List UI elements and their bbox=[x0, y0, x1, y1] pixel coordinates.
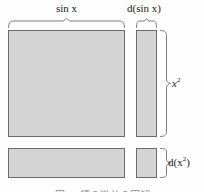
label-d-x-squared: d(x2) bbox=[168, 157, 190, 168]
label-sin-x: sin x bbox=[56, 3, 77, 14]
label-d-sin-x-text: d(sin x) bbox=[127, 2, 161, 14]
x-squared-height-brace bbox=[160, 30, 171, 137]
label-d-sin-x: d(sin x) bbox=[127, 3, 161, 14]
corner-product-strip-rectangle bbox=[136, 148, 157, 178]
d-sin-x-width-brace bbox=[136, 18, 157, 28]
d-sin-x-strip-rectangle bbox=[136, 30, 157, 137]
main-area-rectangle bbox=[8, 30, 125, 137]
label-d-x-squared-close: ) bbox=[186, 156, 190, 168]
product-rule-area-diagram: sin x d(sin x) x2 d(x2) 図 ― 積の微分の図解 bbox=[0, 0, 204, 192]
label-d-x-squared-open: d(x bbox=[168, 156, 183, 168]
label-x-squared: x2 bbox=[172, 78, 180, 89]
sin-x-width-brace bbox=[8, 18, 125, 28]
figure-caption: 図 ― 積の微分の図解 bbox=[0, 185, 204, 192]
figure-caption-text: 図 ― 積の微分の図解 bbox=[55, 190, 150, 192]
d-x-squared-strip-rectangle bbox=[8, 148, 125, 178]
label-sin-x-text: sin x bbox=[56, 2, 77, 14]
label-x-squared-exponent: 2 bbox=[177, 76, 181, 84]
